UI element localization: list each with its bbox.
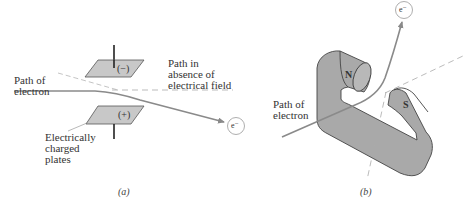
path-of-electron-label-a: Path of electron bbox=[14, 75, 49, 97]
caption-b: (b) bbox=[360, 186, 372, 197]
positive-sign: (+) bbox=[118, 109, 130, 120]
panel-b-graphic bbox=[282, 2, 465, 181]
diagram-canvas bbox=[0, 0, 465, 210]
electron-label-b: e⁻ bbox=[399, 5, 407, 14]
north-pole-label: N bbox=[345, 69, 352, 80]
charged-plates-label: Electrically charged plates bbox=[45, 132, 96, 165]
south-pole-label: S bbox=[403, 99, 409, 110]
plates-leader-line bbox=[68, 123, 87, 131]
path-absence-field-label: Path in absence of electrical field bbox=[168, 58, 231, 91]
field-dashed-line bbox=[385, 55, 465, 93]
negative-sign: (−) bbox=[117, 63, 129, 74]
path-of-electron-label-b: Path of electron bbox=[273, 99, 308, 121]
caption-a: (a) bbox=[118, 186, 130, 197]
positive-plate bbox=[86, 106, 144, 124]
electron-label-a: e⁻ bbox=[231, 121, 239, 130]
